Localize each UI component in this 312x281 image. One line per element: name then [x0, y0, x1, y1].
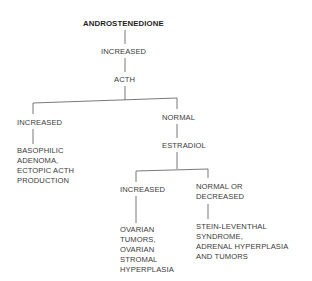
node-ovarian-result: OVARIAN TUMORS, OVARIAN STROMAL HYPERPLA… [120, 225, 174, 275]
result-line: AND TUMORS [196, 252, 288, 262]
result-line: HYPERPLASIA [120, 265, 174, 275]
result-line: ECTOPIC ACTH [17, 166, 74, 176]
node-acth-increased: INCREASED [17, 118, 62, 128]
result-line: ADRENAL HYPERPLASIA [196, 242, 288, 252]
node-androstenedione: ANDROSTENEDIONE [83, 19, 164, 29]
node-increased: INCREASED [101, 47, 146, 57]
result-line: STEIN-LEVENTHAL [196, 222, 288, 232]
node-basophilic-result: BASOPHILIC ADENOMA, ECTOPIC ACTH PRODUCT… [17, 146, 74, 186]
result-line: SYNDROME, [196, 232, 288, 242]
result-line: TUMORS, [120, 235, 174, 245]
node-acth-normal: NORMAL [162, 113, 195, 123]
label-line: NORMAL OR [196, 182, 244, 192]
result-line: PRODUCTION [17, 176, 74, 186]
node-estradiol-increased: INCREASED [120, 185, 165, 195]
result-line: OVARIAN [120, 225, 174, 235]
node-estradiol-normal-decreased: NORMAL OR DECREASED [196, 182, 244, 202]
node-stein-result: STEIN-LEVENTHAL SYNDROME, ADRENAL HYPERP… [196, 222, 288, 262]
result-line: STROMAL [120, 255, 174, 265]
label-line: DECREASED [196, 192, 244, 202]
node-estradiol: ESTRADIOL [162, 141, 206, 151]
result-line: BASOPHILIC [17, 146, 74, 156]
connector-acth-horizontal [33, 98, 177, 103]
result-line: OVARIAN [120, 245, 174, 255]
result-line: ADENOMA, [17, 156, 74, 166]
node-acth: ACTH [114, 75, 135, 85]
connector-estradiol-horizontal [136, 169, 208, 171]
